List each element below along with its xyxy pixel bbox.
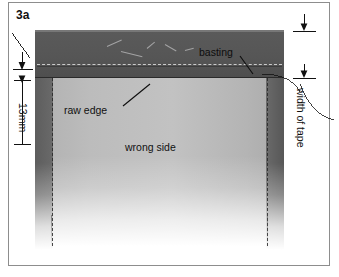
thread-wisp: [147, 42, 155, 49]
label-raw-edge: raw edge: [64, 104, 107, 116]
label-wrong-side: wrong side: [125, 141, 176, 153]
left-side-basting: [52, 78, 53, 246]
thread-wisp: [165, 44, 177, 51]
basting-stitch-line-shadow: [37, 66, 282, 67]
thread-wisp: [121, 51, 143, 57]
thread-wisp: [107, 40, 122, 47]
fabric-crease: [51, 215, 52, 249]
tape-band: [35, 30, 284, 78]
dimension-label-tape-width: width of tape: [295, 88, 307, 148]
fabric-crease: [267, 215, 268, 249]
basting-stitch-line: [37, 64, 282, 65]
thread-wisp: [185, 48, 194, 51]
figure-number-label: 3a: [16, 8, 29, 22]
tape-top-highlight: [35, 30, 284, 32]
label-basting: basting: [199, 46, 233, 58]
figure-3a: 3a basting raw edge wrong side: [0, 0, 339, 277]
dimension-label-seam-allowance: 13mm: [17, 103, 29, 132]
right-seam-allowance: [266, 78, 284, 255]
tape-fold-edge: [35, 77, 284, 78]
